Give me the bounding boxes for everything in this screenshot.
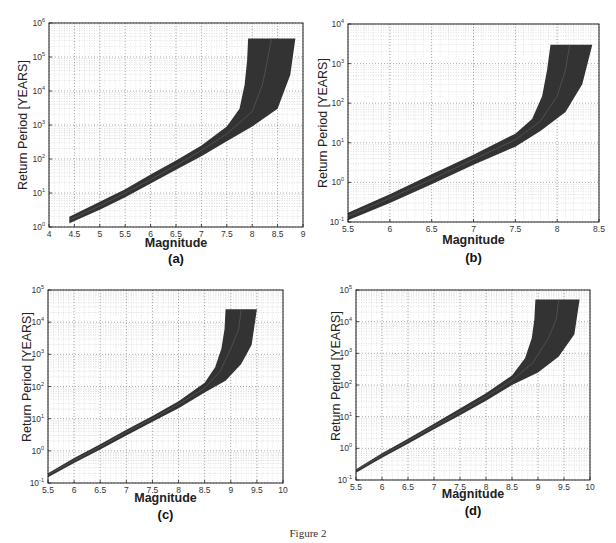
svg-text:100: 100: [31, 445, 44, 456]
x-axis-label-b: Magnitude: [348, 233, 599, 247]
svg-text:100: 100: [32, 221, 45, 232]
panel-label-b: (b): [348, 250, 599, 265]
svg-text:102: 102: [32, 153, 45, 164]
svg-text:104: 104: [32, 85, 45, 96]
svg-text:103: 103: [32, 119, 45, 130]
plot-area-a: 44.555.566.577.588.591001011021031041051…: [0, 0, 308, 262]
svg-text:104: 104: [331, 18, 344, 29]
chart-panel-d: 5.566.577.588.599.51010-1100101102103104…: [308, 265, 616, 525]
svg-text:100: 100: [331, 176, 344, 187]
panel-label-d: (d): [356, 503, 590, 518]
chart-panel-a: 44.555.566.577.588.591001011021031041051…: [0, 0, 308, 262]
svg-text:101: 101: [331, 137, 344, 148]
svg-text:102: 102: [331, 97, 344, 108]
svg-text:101: 101: [32, 187, 45, 198]
y-axis-label-c: Return Period [YEARS]: [20, 312, 34, 442]
svg-text:105: 105: [31, 284, 44, 295]
x-axis-label-a: Magnitude: [49, 236, 303, 250]
svg-text:105: 105: [339, 284, 352, 295]
svg-text:105: 105: [32, 51, 45, 62]
y-axis-label-a: Return Period [YEARS]: [16, 60, 30, 190]
x-axis-label-c: Magnitude: [48, 491, 283, 505]
figure-caption: Figure 2: [0, 527, 616, 539]
chart-panel-c: 5.566.577.588.599.51010-1100101102103104…: [0, 265, 308, 525]
y-axis-label-b: Return Period [YEARS]: [316, 58, 330, 188]
y-axis-label-d: Return Period [YEARS]: [329, 311, 343, 441]
panel-label-c: (c): [48, 507, 283, 522]
plot-area-b: 5.566.577.588.510-1100101102103104: [308, 0, 616, 262]
chart-panel-b: 5.566.577.588.510-1100101102103104 Retur…: [308, 0, 616, 262]
panel-label-a: (a): [49, 251, 303, 266]
x-axis-label-d: Magnitude: [356, 487, 590, 501]
svg-text:100: 100: [339, 442, 352, 453]
svg-text:106: 106: [32, 17, 45, 28]
plot-area-c: 5.566.577.588.599.51010-1100101102103104…: [0, 265, 308, 525]
svg-text:103: 103: [331, 58, 344, 69]
plot-area-d: 5.566.577.588.599.51010-1100101102103104…: [308, 265, 616, 525]
